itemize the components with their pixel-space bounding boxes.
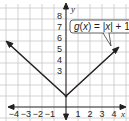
x-tick: 1 [75, 109, 80, 119]
eq-tail: | + 1 [110, 21, 129, 32]
x-axis-label: x [120, 109, 125, 119]
equation-label: g(x) = |x| + 1 [74, 21, 129, 32]
y-tick: 7 [57, 22, 62, 32]
x-tick: −3 [21, 109, 31, 119]
x-tick: −4 [9, 109, 19, 119]
x-tick: −1 [45, 109, 55, 119]
y-axis-down-arrow-icon [64, 114, 69, 120]
y-tick: 8 [57, 11, 62, 21]
eq-eq: ) = | [88, 21, 105, 32]
y-tick: 5 [57, 44, 62, 54]
y-tick: 4 [57, 55, 62, 65]
y-tick: 6 [57, 33, 62, 43]
x-tick: 3 [99, 109, 104, 119]
equation-callout: g(x) = |x| + 1 [70, 20, 129, 46]
x-tick: 2 [87, 109, 92, 119]
function-graph: −4 −3 −2 −1 1 2 3 4 x 3 4 5 6 7 8 y g(x)… [0, 0, 129, 121]
x-tick: −2 [33, 109, 43, 119]
y-tick: 3 [57, 66, 62, 76]
x-tick: 4 [111, 109, 116, 119]
y-axis-label: y [70, 4, 75, 14]
y-axis-up-arrow-icon [64, 3, 69, 9]
